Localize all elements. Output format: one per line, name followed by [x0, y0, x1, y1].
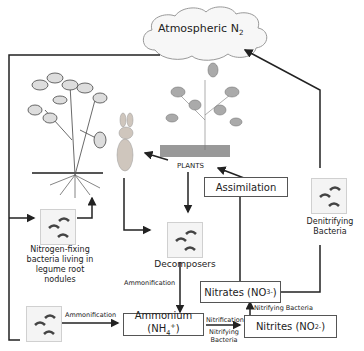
- nitrites-box: Nitrites (NO2-): [244, 315, 337, 338]
- nitrifying-bacteria-label-bottom: Nitrifying Bacteria: [206, 328, 242, 344]
- nitrogen-fixing-bacteria-label: Nitrogen-fixing bacteria living in legum…: [20, 245, 100, 285]
- plants-label: PLANTS: [177, 161, 204, 171]
- plant-image: [160, 63, 242, 157]
- rabbit-image: [117, 113, 133, 171]
- connector-lines: [0, 0, 364, 351]
- assimilation-box: Assimilation: [204, 177, 288, 197]
- nitrogen-fixing-bacteria-icon: [40, 209, 76, 245]
- nitrification-label: Nitrification: [206, 316, 244, 324]
- ammonifying-bacteria-icon: [26, 306, 62, 342]
- nitrates-box: Nitrates (NO3-): [200, 281, 281, 303]
- ammonification-label-bacteria: Ammonification: [65, 311, 116, 319]
- decomposers-label: Decomposers: [150, 259, 220, 269]
- ammonium-box: Ammonium (NH4+): [123, 313, 204, 336]
- decomposers-icon: [167, 222, 203, 258]
- atmospheric-n2-label: Atmospheric N2: [158, 22, 243, 37]
- legume-plant-image: [28, 73, 107, 198]
- denitrifying-bacteria-icon: [311, 178, 347, 214]
- ammonification-label-decomposers: Ammonification: [124, 279, 175, 287]
- nitrifying-bacteria-label-right: Nitrifying Bacteria: [254, 304, 313, 312]
- denitrifying-bacteria-label: Denitrifying Bacteria: [296, 217, 364, 237]
